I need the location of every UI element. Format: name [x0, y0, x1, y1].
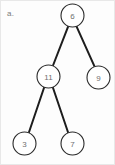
tree-diagram-svg: 611937: [1, 1, 115, 165]
binary-tree-figure: a. 611937: [0, 0, 115, 165]
tree-node-11[interactable]: 11: [37, 65, 60, 88]
tree-node-label-7: 7: [70, 140, 75, 149]
tree-node-6[interactable]: 6: [61, 4, 84, 27]
tree-node-label-6: 6: [70, 12, 75, 21]
tree-edge-n11-to-n7: [53, 87, 68, 132]
tree-edge-root-to-n9: [77, 26, 95, 66]
tree-edge-n11-to-n3: [29, 87, 44, 132]
tree-edge-root-to-n11: [53, 27, 68, 66]
tree-node-9[interactable]: 9: [87, 66, 110, 89]
tree-node-label-3: 3: [22, 140, 27, 149]
tree-node-label-11: 11: [44, 73, 53, 82]
tree-node-label-9: 9: [96, 74, 101, 83]
tree-node-3[interactable]: 3: [13, 132, 36, 155]
tree-node-group: 611937: [13, 4, 110, 155]
tree-node-7[interactable]: 7: [61, 132, 84, 155]
